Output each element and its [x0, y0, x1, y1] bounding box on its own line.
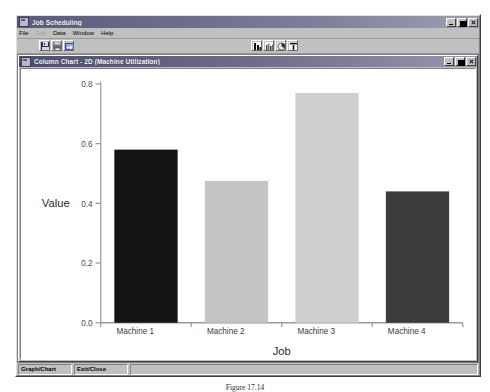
bar-4[interactable]: [386, 191, 449, 322]
chart-close-button[interactable]: [466, 57, 476, 66]
y-axis-tick-label: 0.2: [81, 258, 93, 268]
gantt-chart-button[interactable]: [287, 40, 298, 51]
menu-item-help[interactable]: Help: [101, 28, 113, 38]
chart-window-title: Column Chart - 2D (Machine Utilization): [34, 58, 160, 65]
pie-chart-icon: [277, 42, 286, 51]
chart-title-bar[interactable]: Column Chart - 2D (Machine Utilization): [19, 56, 477, 67]
bar-3[interactable]: [295, 93, 358, 323]
menu-item-window[interactable]: Window: [73, 28, 94, 38]
maximize-button[interactable]: [457, 18, 467, 27]
window-controls: [446, 18, 478, 27]
y-axis-tick-label: 0.4: [81, 198, 93, 208]
column-chart-icon: [265, 42, 274, 51]
application-window: Job Scheduling File Edit Data Window Hel…: [15, 14, 481, 377]
chart-maximize-button[interactable]: [455, 57, 465, 66]
status-pane-empty: [130, 364, 478, 375]
print-button[interactable]: [51, 40, 62, 51]
app-icon: [19, 17, 29, 27]
mdi-client-area: Column Chart - 2D (Machine Utilization) …: [17, 54, 479, 363]
bar-chart-plot: 0.00.20.40.60.8Machine 1Machine 2Machine…: [21, 69, 475, 359]
column-chart-button[interactable]: [263, 40, 274, 51]
pie-chart-button[interactable]: [275, 40, 286, 51]
minimize-button[interactable]: [446, 18, 456, 27]
bar-1[interactable]: [114, 150, 177, 323]
bar-chart-svg: 0.00.20.40.60.8Machine 1Machine 2Machine…: [21, 69, 475, 359]
application-window-inner: Job Scheduling File Edit Data Window Hel…: [16, 15, 480, 376]
chart-child-window: Column Chart - 2D (Machine Utilization) …: [18, 55, 478, 362]
toolbar-chart-group: [251, 40, 298, 51]
toolbar-file-group: [39, 40, 74, 51]
toolbar: [17, 39, 479, 54]
y-axis-tick-label: 0.0: [81, 318, 93, 328]
status-bar: Graph/Chart Exit/Close: [17, 363, 479, 375]
close-button[interactable]: [468, 18, 478, 27]
status-pane-exit-close[interactable]: Exit/Close: [74, 364, 128, 375]
x-axis-title: Job: [273, 345, 291, 357]
floppy-disk-icon: [41, 42, 50, 51]
chart-minimize-button[interactable]: [444, 57, 454, 66]
chart-canvas: 0.00.20.40.60.8Machine 1Machine 2Machine…: [20, 68, 476, 360]
printer-icon: [53, 42, 62, 51]
gantt-chart-icon: [289, 42, 298, 51]
menu-item-edit: Edit: [36, 28, 46, 38]
bar-2[interactable]: [205, 181, 268, 323]
y-axis-title: Value: [42, 196, 70, 208]
menu-bar: File Edit Data Window Help: [17, 28, 479, 39]
export-icon: [65, 42, 74, 51]
menu-item-file[interactable]: File: [19, 28, 29, 38]
bar-chart-button[interactable]: [251, 40, 262, 51]
y-axis-tick-label: 0.8: [81, 79, 93, 89]
x-axis-category-label: Machine 3: [297, 326, 335, 336]
status-pane-graph-chart[interactable]: Graph/Chart: [18, 364, 72, 375]
figure-caption: Figure 17.14: [0, 383, 490, 392]
main-title-bar[interactable]: Job Scheduling: [17, 16, 479, 28]
y-axis-tick-label: 0.6: [81, 139, 93, 149]
export-button[interactable]: [63, 40, 74, 51]
chart-window-icon: [21, 57, 31, 67]
x-axis-category-label: Machine 2: [207, 326, 245, 336]
bar-chart-icon: [253, 42, 262, 51]
x-axis-category-label: Machine 1: [116, 326, 154, 336]
menu-item-data[interactable]: Data: [53, 28, 66, 38]
window-title: Job Scheduling: [32, 19, 82, 26]
chart-window-controls: [444, 57, 476, 66]
x-axis-category-label: Machine 4: [388, 326, 426, 336]
save-button[interactable]: [39, 40, 50, 51]
